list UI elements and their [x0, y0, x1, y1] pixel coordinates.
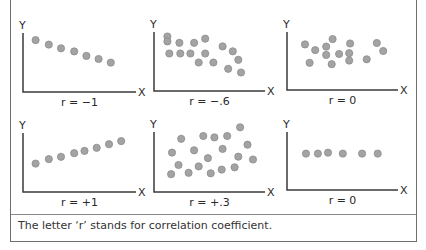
- panel-1-data-point: [107, 59, 114, 66]
- panel-2-x-axis-label: X: [267, 85, 275, 98]
- panel-3-data-point: [301, 41, 308, 48]
- panel-6-axes: [287, 132, 398, 190]
- panel-4-data-point: [57, 153, 64, 160]
- panel-5-data-point: [175, 161, 182, 168]
- panel-3-data-point: [373, 39, 380, 46]
- panel-3-data-point: [306, 59, 313, 66]
- panel-5-data-point: [195, 163, 202, 170]
- panel-2-data-point: [237, 69, 244, 76]
- panel-4-data-point: [45, 156, 52, 163]
- panel-1-data-point: [32, 37, 39, 44]
- panel-3-correlation-label: r = 0: [329, 94, 357, 107]
- panel-4-x-axis-label: X: [138, 186, 146, 199]
- panel-5-data-point: [249, 156, 256, 163]
- panel-2-data-point: [202, 50, 209, 57]
- panel-6-y-axis-label: Y: [282, 118, 290, 131]
- panel-5-data-point: [224, 132, 231, 139]
- panel-3-data-point: [323, 51, 330, 58]
- panel-4-data-point: [118, 138, 125, 145]
- panel-3-data-point: [328, 61, 335, 68]
- panel-3-data-point: [347, 40, 354, 47]
- panel-2-data-point: [202, 35, 209, 42]
- panel-5-data-point: [218, 166, 225, 173]
- panel-5-data-point: [178, 135, 185, 142]
- panel-2-data-point: [195, 59, 202, 66]
- panel-5-data-point: [168, 171, 175, 178]
- panel-2-data-point: [229, 48, 236, 55]
- panel-1-data-point: [57, 45, 64, 52]
- panel-4-data-point: [93, 144, 100, 151]
- panel-5-data-point: [191, 147, 198, 154]
- panel-3-x-axis-label: X: [400, 84, 408, 97]
- panel-2-data-point: [187, 50, 194, 57]
- panel-6-data-point: [314, 150, 321, 157]
- panel-1-y-axis-label: Y: [18, 19, 26, 32]
- panel-6-x-axis-label: X: [400, 184, 408, 197]
- panel-1-correlation-label: r = −1: [61, 96, 98, 109]
- panel-1-data-point: [83, 52, 90, 59]
- panel-4-y-axis-label: Y: [18, 119, 26, 132]
- panel-5-data-point: [237, 124, 244, 131]
- panel-2-data-point: [210, 59, 217, 66]
- panel-3-data-point: [363, 56, 370, 63]
- panel-3-y-axis-label: Y: [282, 18, 290, 31]
- panel-6-data-point: [339, 150, 346, 157]
- panel-5-y-axis-label: Y: [149, 118, 157, 131]
- panel-4-data-point: [32, 160, 39, 167]
- panel-6-data-point: [302, 150, 309, 157]
- panel-5-data-point: [219, 145, 226, 152]
- panel-2-data-point: [225, 65, 232, 72]
- panel-5-data-point: [235, 153, 242, 160]
- panel-2-data-point: [166, 50, 173, 57]
- panel-1-data-point: [71, 48, 78, 55]
- panel-5-data-point: [207, 170, 214, 177]
- panel-3-data-point: [329, 36, 336, 43]
- panel-1-x-axis-label: X: [138, 86, 146, 99]
- panel-6-data-point: [359, 150, 366, 157]
- scatter-grid: YXr = −1YXr = −.6YXr = 0YXr = +1YXr = +.…: [0, 0, 426, 250]
- panel-6-data-point: [374, 150, 381, 157]
- panel-5-data-point: [204, 155, 211, 162]
- panel-2-data-point: [164, 38, 171, 45]
- panel-5-data-point: [185, 169, 192, 176]
- panel-2-data-point: [191, 39, 198, 46]
- panel-3-data-point: [346, 57, 353, 64]
- panel-5-data-point: [168, 149, 175, 156]
- panel-4-data-point: [71, 150, 78, 157]
- panel-5-data-point: [200, 132, 207, 139]
- panel-3-data-point: [336, 50, 343, 57]
- panel-3-data-point: [380, 47, 387, 54]
- panel-2-data-point: [176, 39, 183, 46]
- panel-5-data-point: [231, 164, 238, 171]
- panel-4-data-point: [105, 141, 112, 148]
- panel-3-data-point: [346, 50, 353, 57]
- panel-5-data-point: [244, 141, 251, 148]
- panel-3-data-point: [312, 47, 319, 54]
- panel-1-data-point: [45, 41, 52, 48]
- panel-5-data-point: [211, 134, 218, 141]
- panel-2-data-point: [177, 50, 184, 57]
- panel-2-correlation-label: r = −.6: [189, 95, 229, 108]
- panel-3-data-point: [323, 43, 330, 50]
- panel-6-data-point: [324, 149, 331, 156]
- panel-1-axes: [23, 33, 136, 92]
- panel-6-correlation-label: r = 0: [329, 194, 357, 207]
- panel-2-data-point: [219, 43, 226, 50]
- panel-4-correlation-label: r = +1: [61, 196, 98, 209]
- panel-5-correlation-label: r = +.3: [189, 196, 229, 209]
- panel-1-data-point: [95, 55, 102, 62]
- panel-2-data-point: [235, 56, 242, 63]
- panel-4-data-point: [81, 147, 88, 154]
- panel-5-x-axis-label: X: [267, 186, 275, 199]
- panel-2-y-axis-label: Y: [149, 18, 157, 31]
